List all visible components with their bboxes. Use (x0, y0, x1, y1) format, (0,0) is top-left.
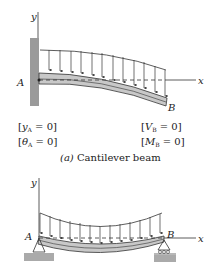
point-a-label: A (16, 77, 24, 88)
beam-diagrams: y x A B [yA = 0] (0, 0, 215, 266)
point-b-label-b: B (166, 229, 174, 240)
point-b-label: B (167, 102, 175, 113)
condition-theta-a: [θA = 0] (18, 136, 57, 148)
cantilever-beam-figure: y x A B [yA = 0] (16, 11, 204, 163)
load-envelope (40, 50, 166, 70)
caption-a: (a) Cantilever beam (60, 152, 161, 163)
condition-y-a: [yA = 0] (18, 121, 57, 133)
load-envelope-b (40, 213, 162, 227)
y-axis-label: y (30, 11, 37, 22)
point-a-label-b: A (24, 231, 32, 242)
deflected-beam (39, 73, 167, 106)
x-axis-label: x (198, 75, 204, 86)
x-axis-label-b: x (198, 233, 204, 244)
point-a-marker (38, 79, 41, 82)
y-axis-label-b: y (30, 177, 37, 188)
load-arrows-b (40, 213, 160, 243)
condition-m-b: [MB = 0] (141, 136, 185, 148)
fixed-wall (30, 38, 39, 106)
condition-v-b: [VB = 0] (141, 121, 182, 133)
simply-supported-beam-figure: y x A B (24, 177, 204, 262)
